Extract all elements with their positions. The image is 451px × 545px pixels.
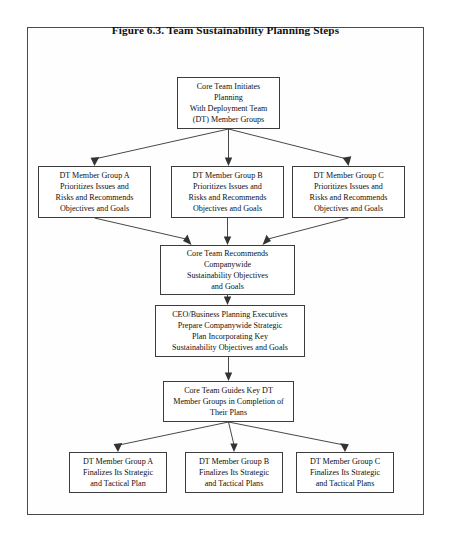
node-line: DT Member Group C	[313, 170, 383, 181]
node-group-b-prioritize: DT Member Group B Prioritizes Issues and…	[171, 166, 284, 218]
node-line: Member Groups in Completion of	[173, 396, 284, 407]
node-line: Plan Incorporating Key	[192, 331, 268, 342]
figure-title: Figure 6.3. Team Sustainability Planning…	[0, 24, 451, 36]
node-line: Objectives and Goals	[314, 203, 383, 214]
node-ceo-business-planning-executives: CEO/Business Planning Executives Prepare…	[155, 305, 305, 357]
node-line: Planning	[214, 92, 243, 103]
node-line: Core Team Guides Key DT	[184, 385, 273, 396]
node-line: Objectives and Goals	[60, 203, 129, 214]
node-line: CEO/Business Planning Executives	[172, 309, 288, 320]
node-line: Companywide	[204, 259, 251, 270]
node-group-b-finalize: DT Member Group B Finalizes Its Strategi…	[185, 452, 283, 493]
node-line: Core Team Initiates	[197, 81, 261, 92]
node-group-a-prioritize: DT Member Group A Prioritizes Issues and…	[38, 166, 151, 218]
node-core-team-initiates: Core Team Initiates Planning With Deploy…	[177, 77, 280, 129]
node-group-c-prioritize: DT Member Group C Prioritizes Issues and…	[292, 166, 405, 218]
node-line: Prioritizes Issues and	[314, 181, 383, 192]
node-line: Sustainability Objectives	[187, 270, 268, 281]
node-line: Risks and Recommends	[56, 192, 134, 203]
node-line: DT Member Group A	[83, 456, 153, 467]
node-line: DT Member Group C	[310, 456, 380, 467]
node-core-team-recommends: Core Team Recommends Companywide Sustain…	[160, 245, 295, 295]
node-line: With Deployment Team	[190, 103, 268, 114]
node-line: Sustainability Objectives and Goals	[172, 342, 288, 353]
node-line: DT Member Group B	[199, 456, 269, 467]
node-line: Finalizes Its Strategic	[83, 467, 153, 478]
node-line: and Tactical Plans	[316, 478, 375, 489]
node-line: Finalizes Its Strategic	[310, 467, 380, 478]
node-line: and Tactical Plans	[205, 478, 264, 489]
node-line: (DT) Member Groups	[193, 114, 264, 125]
node-line: Finalizes Its Strategic	[199, 467, 269, 478]
node-line: Prepare Companywide Strategic	[178, 320, 283, 331]
node-line: Core Team Recommends	[187, 248, 269, 259]
node-line: Prioritizes Issues and	[60, 181, 129, 192]
node-line: Their Plans	[210, 407, 247, 418]
node-line: Risks and Recommends	[189, 192, 267, 203]
node-line: Prioritizes Issues and	[193, 181, 262, 192]
node-line: and Goals	[211, 281, 244, 292]
node-core-team-guides: Core Team Guides Key DT Member Groups in…	[163, 381, 294, 422]
node-line: and Tactical Plan	[90, 478, 145, 489]
node-line: DT Member Group A	[59, 170, 129, 181]
node-group-a-finalize: DT Member Group A Finalizes Its Strategi…	[69, 452, 167, 493]
node-line: Risks and Recommends	[310, 192, 388, 203]
node-group-c-finalize: DT Member Group C Finalizes Its Strategi…	[296, 452, 394, 493]
node-line: Objectives and Goals	[193, 203, 262, 214]
node-line: DT Member Group B	[192, 170, 262, 181]
